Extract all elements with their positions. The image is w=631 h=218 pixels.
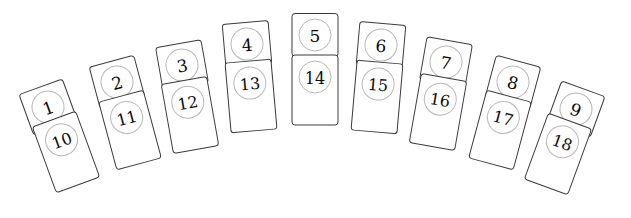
domino-fan-scene: 110211312413514615716817918 — [0, 0, 631, 218]
tile-6-top-number: 6 — [375, 36, 388, 57]
tile-9-bottom-card[interactable] — [524, 113, 591, 195]
domino-fan-canvas: 110211312413514615716817918 — [0, 0, 631, 218]
domino-tile-5[interactable]: 514 — [292, 14, 338, 126]
domino-tile-4[interactable]: 413 — [222, 21, 277, 133]
tile-9-bottom[interactable]: 18 — [524, 113, 591, 195]
tile-5-bottom-card[interactable] — [292, 55, 338, 125]
domino-tile-1[interactable]: 110 — [19, 79, 100, 193]
tile-5-bottom[interactable]: 14 — [292, 55, 338, 125]
domino-tile-7[interactable]: 716 — [409, 37, 472, 151]
tile-3-bottom[interactable]: 12 — [161, 77, 218, 154]
tile-4-bottom-number: 13 — [239, 74, 261, 95]
tile-5-bottom-number: 14 — [305, 69, 325, 88]
tiles-group: 110211312413514615716817918 — [19, 14, 605, 195]
tile-1-bottom-card[interactable] — [32, 111, 99, 193]
tile-7-bottom-card[interactable] — [409, 74, 466, 151]
tile-7-bottom[interactable]: 16 — [409, 74, 466, 151]
tile-7-bottom-number: 16 — [428, 89, 451, 111]
tile-2-bottom[interactable]: 11 — [99, 90, 162, 170]
tile-5-top-number: 5 — [310, 26, 321, 46]
domino-tile-8[interactable]: 817 — [469, 55, 541, 169]
domino-tile-6[interactable]: 615 — [351, 22, 406, 134]
tile-5-top[interactable]: 5 — [292, 14, 338, 57]
tile-8-bottom[interactable]: 17 — [469, 90, 532, 170]
tile-4-bottom[interactable]: 13 — [225, 59, 277, 133]
tile-3-bottom-card[interactable] — [161, 77, 218, 154]
domino-tile-9[interactable]: 918 — [524, 81, 605, 195]
tile-3-bottom-number: 12 — [176, 92, 199, 114]
domino-tile-2[interactable]: 211 — [89, 55, 161, 169]
tile-1-bottom[interactable]: 10 — [32, 111, 99, 193]
tile-4-top-number: 4 — [241, 35, 254, 56]
tile-4-bottom-card[interactable] — [225, 59, 277, 133]
tile-6-bottom[interactable]: 15 — [351, 60, 403, 134]
domino-tile-3[interactable]: 312 — [156, 40, 219, 154]
tile-6-bottom-card[interactable] — [351, 60, 403, 134]
tile-6-bottom-number: 15 — [367, 75, 389, 96]
